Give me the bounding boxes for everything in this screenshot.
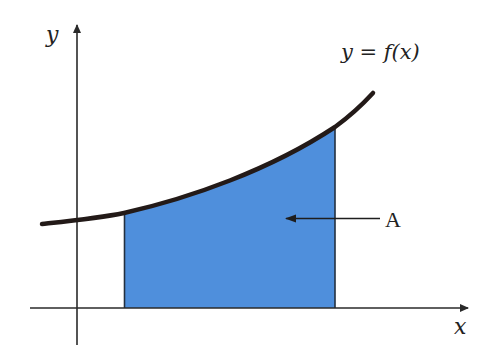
area-under-curve-diagram: y x y = f(x) A: [0, 0, 491, 354]
shaded-area-region: [124, 127, 335, 308]
x-axis-label: x: [454, 314, 467, 339]
curve-label: y = f(x): [340, 40, 420, 64]
area-label: A: [385, 207, 401, 232]
y-axis-label: y: [45, 22, 59, 47]
